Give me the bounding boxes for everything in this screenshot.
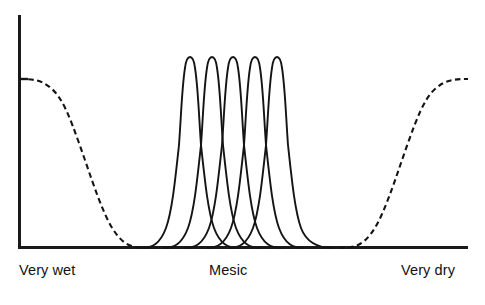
dry-specialist-path — [339, 79, 468, 248]
figure-container: Very wet Mesic Very dry — [0, 0, 485, 305]
response-curve-plot — [0, 0, 485, 305]
wet-specialist-path — [19, 79, 148, 248]
curve-wet-specialist — [19, 79, 148, 248]
axis-label-very-wet: Very wet — [19, 263, 75, 278]
curve-dry-specialist — [339, 79, 468, 248]
axis-label-very-dry: Very dry — [401, 263, 455, 278]
axis-label-mesic: Mesic — [209, 263, 247, 278]
